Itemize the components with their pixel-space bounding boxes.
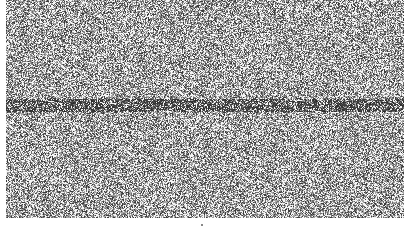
- noise-texture: [0, 0, 413, 230]
- noise-image: Grayscale noise texture with a darker ho…: [0, 0, 413, 230]
